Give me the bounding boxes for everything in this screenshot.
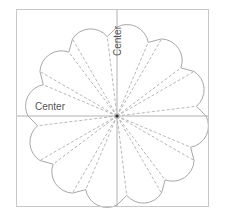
vertical-center-label: Center <box>113 26 123 56</box>
horizontal-center-label: Center <box>35 102 65 112</box>
